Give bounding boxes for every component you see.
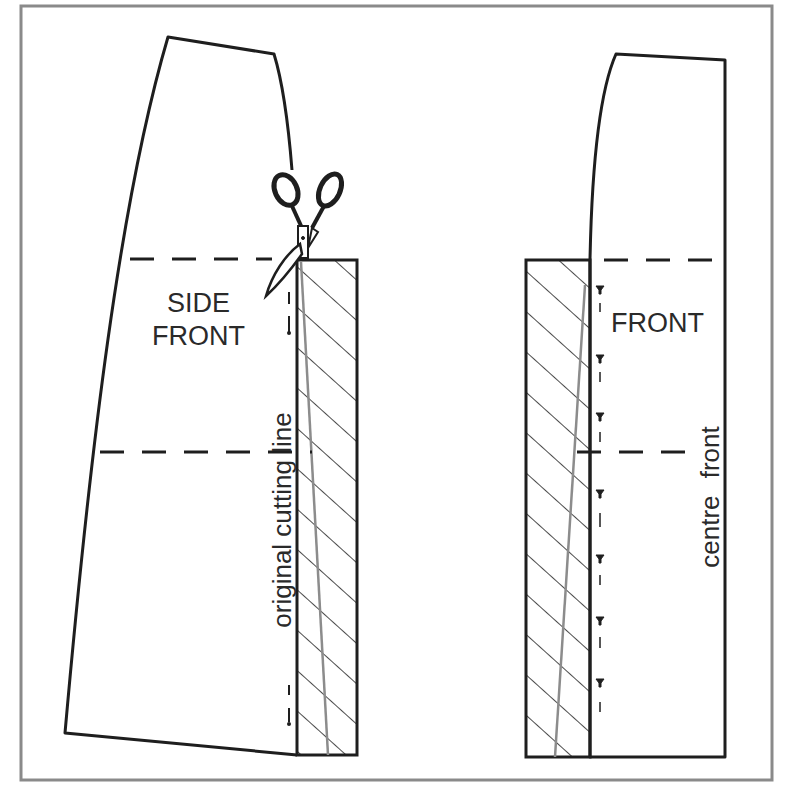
front-outline bbox=[590, 54, 725, 757]
centre-front-label: centre front bbox=[697, 426, 723, 568]
pattern-diagram bbox=[0, 0, 788, 789]
pin-icon bbox=[596, 286, 604, 712]
side-front-outline bbox=[65, 37, 297, 755]
side-front-piece bbox=[65, 37, 357, 755]
side-front-label-line1: SIDE bbox=[152, 287, 245, 320]
front-label: FRONT bbox=[611, 310, 704, 337]
side-front-pin-head bbox=[287, 331, 291, 335]
side-front-label: SIDE FRONT bbox=[152, 287, 245, 353]
front-piece bbox=[526, 54, 725, 757]
original-cutting-line-label: original cutting line bbox=[269, 412, 295, 627]
outer-frame bbox=[21, 6, 772, 780]
front-extension-strip bbox=[526, 260, 590, 757]
side-front-pin-head bbox=[287, 722, 291, 726]
side-front-label-line2: FRONT bbox=[152, 320, 245, 353]
diagram-canvas: SIDE FRONT original cutting line FRONT c… bbox=[0, 0, 788, 789]
